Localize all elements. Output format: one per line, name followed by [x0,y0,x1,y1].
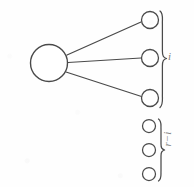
figure-container: i r−i [0,0,194,187]
connected-node-2 [142,50,159,67]
edge-to-node-1 [67,22,141,55]
isolated-node-1 [143,120,156,133]
edge-to-node-3 [66,72,142,97]
edge-group [66,22,142,97]
graph-diagram [0,0,194,187]
connected-node-1 [142,12,159,29]
connected-group-nodes [142,12,159,107]
isolated-node-2 [143,144,156,157]
isolated-node-3 [143,168,156,181]
connected-node-3 [142,90,159,107]
isolated-group-nodes [143,120,156,181]
edge-to-node-2 [68,58,141,63]
connected-group-brace-icon [160,11,167,108]
source-node [31,45,68,82]
isolated-group-label: r−i [162,132,173,147]
isolated-group-brace-icon [159,119,165,181]
connected-group-label: i [168,51,171,62]
